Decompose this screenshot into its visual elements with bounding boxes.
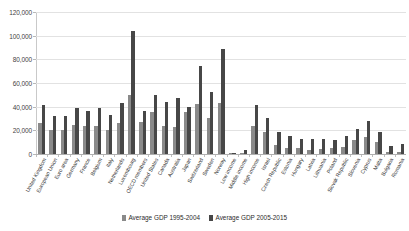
legend-swatch-icon (122, 215, 126, 221)
x-axis-tick-mark (384, 155, 385, 157)
x-axis-tick-mark (227, 155, 228, 157)
bar (300, 139, 303, 154)
bar-group (339, 12, 350, 154)
bar-group (283, 12, 294, 154)
bar-group (193, 12, 204, 154)
y-axis-tick-mark (33, 154, 36, 155)
y-axis-tick-label: 60,000 (13, 80, 32, 87)
bar (389, 146, 392, 154)
x-axis-tick-mark (328, 155, 329, 157)
x-axis-tick-mark (283, 155, 284, 157)
bar-group (384, 12, 395, 154)
bar-group (126, 12, 137, 154)
bar (98, 108, 101, 154)
bar (199, 66, 202, 154)
x-axis-tick-mark (260, 155, 261, 157)
gdp-bar-chart: 020,00040,00060,00080,000100,000120,000 … (0, 0, 409, 231)
x-axis-tick-mark (159, 155, 160, 157)
bar (378, 132, 381, 154)
bar (154, 95, 157, 154)
bar (311, 139, 314, 154)
x-axis-tick-mark (395, 155, 396, 157)
bar (232, 153, 235, 154)
y-axis-tick-label: 120,000 (9, 9, 32, 16)
x-axis-tick-mark (305, 155, 306, 157)
x-axis-tick-mark (238, 155, 239, 157)
x-axis-tick-mark (81, 155, 82, 157)
x-axis-tick-label: Italy (104, 157, 114, 168)
y-axis-labels: 020,00040,00060,00080,000100,000120,000 (0, 12, 32, 154)
bar (86, 111, 89, 154)
x-axis-tick-mark (92, 155, 93, 157)
bar (187, 107, 190, 154)
bar-group (249, 12, 260, 154)
bar-group (81, 12, 92, 154)
bar (277, 132, 280, 154)
y-axis-tick-label: 20,000 (13, 127, 32, 134)
bar-group (148, 12, 159, 154)
bar (109, 115, 112, 154)
bar-group (216, 12, 227, 154)
bar-group (137, 12, 148, 154)
x-axis-tick-mark (137, 155, 138, 157)
bar-group (227, 12, 238, 154)
legend-swatch-icon (209, 215, 213, 221)
legend-label: Average GDP 2005-2015 (216, 214, 288, 221)
bar-group (36, 12, 47, 154)
bar (401, 144, 404, 154)
bar-group (350, 12, 361, 154)
bar (367, 121, 370, 154)
x-axis-tick-mark (372, 155, 373, 157)
bar-group (103, 12, 114, 154)
y-axis-tick-label: 100,000 (9, 32, 32, 39)
legend-item[interactable]: Average GDP 1995-2004 (122, 214, 200, 221)
bar-group (260, 12, 271, 154)
bar-group (70, 12, 81, 154)
x-axis-tick-mark (58, 155, 59, 157)
legend-item[interactable]: Average GDP 2005-2015 (209, 214, 287, 221)
bar (255, 105, 258, 154)
bar (221, 49, 224, 154)
bar-group (294, 12, 305, 154)
bar-group (58, 12, 69, 154)
plot-area (36, 12, 406, 154)
x-axis-tick-mark (339, 155, 340, 157)
bar (244, 150, 247, 154)
legend-label: Average GDP 1995-2004 (128, 214, 200, 221)
x-axis-tick-mark (103, 155, 104, 157)
bar-group (316, 12, 327, 154)
y-axis-tick-mark (33, 130, 36, 131)
bar-group (395, 12, 406, 154)
x-axis-tick-mark (361, 155, 362, 157)
bar (288, 136, 291, 154)
x-axis-tick-mark (70, 155, 71, 157)
x-axis-tick-mark (294, 155, 295, 157)
bar (53, 116, 56, 154)
x-axis-tick-mark (350, 155, 351, 157)
y-axis-tick-label: 0 (28, 151, 32, 158)
y-axis-tick-mark (33, 12, 36, 13)
bar-group (238, 12, 249, 154)
x-axis-tick-mark (215, 155, 216, 157)
bar-group (373, 12, 384, 154)
bar (131, 31, 134, 154)
y-axis-tick-mark (33, 107, 36, 108)
y-axis-tick-mark (33, 83, 36, 84)
bar (165, 102, 168, 154)
bar (143, 111, 146, 154)
x-axis-tick-mark (204, 155, 205, 157)
bar-group (361, 12, 372, 154)
y-axis-tick-mark (33, 59, 36, 60)
x-axis-labels: United KingdomEuropean UnionEuro areaGer… (36, 155, 406, 213)
bar (322, 139, 325, 154)
bar-group (328, 12, 339, 154)
y-axis-tick-label: 40,000 (13, 103, 32, 110)
bar-group (47, 12, 58, 154)
x-axis-tick-mark (36, 155, 37, 157)
x-axis-tick-mark (171, 155, 172, 157)
bar (345, 136, 348, 154)
x-axis-tick-mark (193, 155, 194, 157)
bar (120, 103, 123, 154)
x-axis-tick-mark (47, 155, 48, 157)
chart-legend: Average GDP 1995-2004Average GDP 2005-20… (0, 214, 409, 221)
